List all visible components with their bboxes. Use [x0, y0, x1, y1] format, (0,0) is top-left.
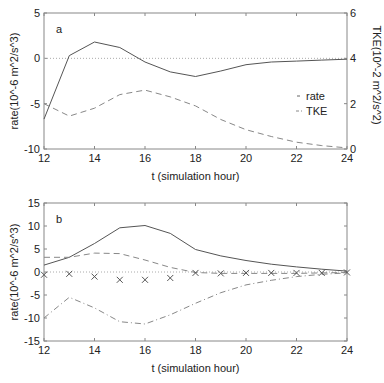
legend-tke-label: TKE — [306, 105, 327, 117]
series-line-dashed-upper — [44, 253, 347, 273]
panel-b-label: b — [56, 213, 62, 225]
right-y-tick-label: 6 — [350, 7, 356, 19]
y-tick-label: -10 — [24, 143, 40, 155]
legend: rate TKE — [296, 90, 327, 117]
x-tick-label: 20 — [240, 344, 252, 356]
y-tick-label: 0 — [34, 52, 40, 64]
x-marker — [92, 274, 98, 280]
panel-a-frame — [44, 13, 347, 149]
x-tick-label: 22 — [290, 152, 302, 164]
panel-a-label: a — [56, 23, 63, 35]
y-tick-label: -15 — [24, 335, 40, 347]
panel-b-y-axis-title: rate(10^-6 m^2/s^3) — [8, 224, 20, 321]
series-line-dashdot-lower — [44, 273, 347, 324]
series-line-solid — [44, 226, 347, 272]
y-tick-label: 15 — [28, 197, 40, 209]
chart-figure: 1214161820222450-5-106420 a t (simulatio… — [0, 0, 384, 383]
y-tick-label: 5 — [34, 243, 40, 255]
x-tick-label: 14 — [88, 344, 100, 356]
y-tick-label: -10 — [24, 312, 40, 324]
legend-rate-label: rate — [306, 90, 325, 102]
y-tick-label: -5 — [30, 289, 40, 301]
x-marker — [193, 270, 199, 276]
panel-a-ticks: 1214161820222450-5-106420 — [24, 7, 356, 164]
x-tick-label: 14 — [88, 152, 100, 164]
x-marker — [167, 275, 173, 281]
panel-b-x-axis-title: t (simulation hour) — [151, 362, 239, 374]
y-tick-label: -5 — [30, 98, 40, 110]
panel-a-x-axis-title: t (simulation hour) — [151, 170, 239, 182]
x-marker — [117, 277, 123, 283]
right-y-tick-label: 2 — [350, 98, 356, 110]
x-tick-label: 18 — [189, 152, 201, 164]
series-line-tke — [44, 90, 347, 148]
y-tick-label: 0 — [34, 266, 40, 278]
panel-a-right-axis-title: TKE(10^-2 m^2/s^2) — [371, 25, 383, 124]
x-tick-label: 20 — [240, 152, 252, 164]
panel-a: 1214161820222450-5-106420 a t (simulatio… — [8, 7, 383, 182]
x-tick-label: 22 — [290, 344, 302, 356]
x-tick-label: 16 — [139, 344, 151, 356]
panel-b-series — [41, 226, 350, 325]
x-tick-label: 24 — [341, 344, 353, 356]
series-line-rate — [44, 42, 347, 119]
right-y-tick-label: 4 — [350, 52, 356, 64]
y-tick-label: 5 — [34, 7, 40, 19]
panel-b-ticks: 12141618202224151050-5-10-15 — [24, 197, 353, 356]
panel-a-y-axis-title: rate(10^-6 m^2/s^3) — [8, 33, 20, 130]
x-marker — [66, 271, 72, 277]
x-tick-label: 16 — [139, 152, 151, 164]
panel-b: 12141618202224151050-5-10-15 b t (simula… — [8, 197, 353, 374]
right-y-tick-label: 0 — [350, 143, 356, 155]
x-marker — [142, 277, 148, 283]
y-tick-label: 10 — [28, 220, 40, 232]
x-tick-label: 18 — [189, 344, 201, 356]
